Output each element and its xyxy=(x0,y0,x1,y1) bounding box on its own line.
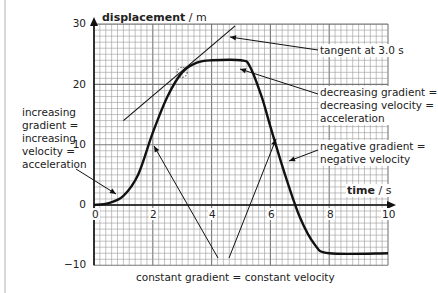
tangent-line xyxy=(123,26,235,121)
x-tick-8: 8 xyxy=(326,208,335,220)
x-tick-6: 6 xyxy=(267,208,276,220)
label-constant: constant gradient = constant velocity xyxy=(136,271,335,284)
x-tick-2: 2 xyxy=(149,208,158,220)
x-axis-title: time / s xyxy=(346,184,392,197)
y-tick-minus10: −10 xyxy=(64,258,86,270)
x-tick-0: 0 xyxy=(91,208,100,220)
label-increasing: increasing gradient = increasing velocit… xyxy=(22,106,87,171)
label-decreasing: decreasing gradient = decreasing velocit… xyxy=(319,86,438,125)
y-axis-title: displacement / m xyxy=(102,11,207,24)
y-tick-30: 30 xyxy=(64,17,86,29)
label-negative: negative gradient = negative velocity xyxy=(319,140,427,166)
annotation-arrows xyxy=(76,35,318,258)
x-tick-10: 10 xyxy=(381,208,396,220)
y-tick-0: 0 xyxy=(64,198,86,210)
y-tick-20: 20 xyxy=(64,78,86,90)
x-tick-4: 4 xyxy=(208,208,217,220)
label-tangent: tangent at 3.0 s xyxy=(319,44,405,57)
